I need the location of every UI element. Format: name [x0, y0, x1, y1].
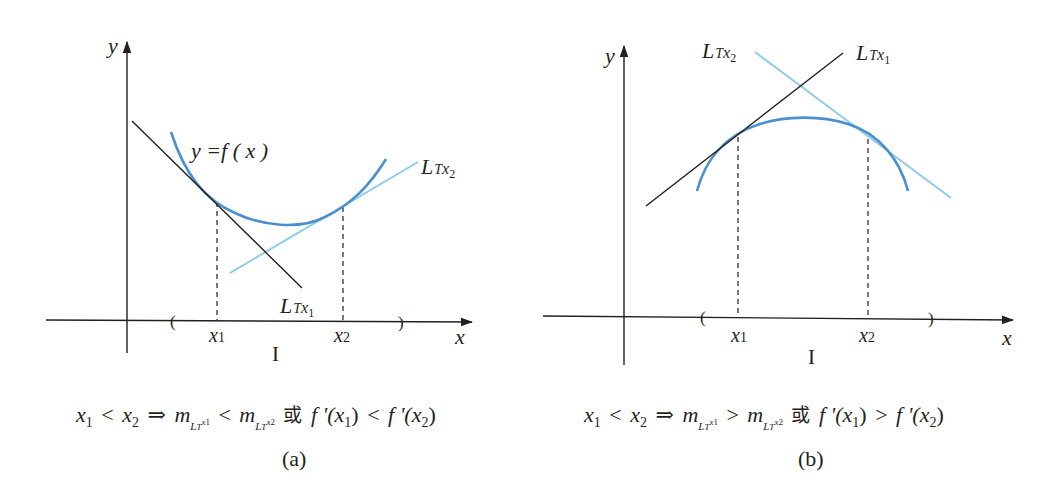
interval-close-paren-a: ) — [398, 313, 404, 332]
y-axis-label-b: y — [603, 43, 615, 68]
panel-b: ( ) y x x1 x2 I LTx1 LTx2 — [543, 38, 1013, 369]
interval-open-paren-b: ( — [700, 308, 706, 327]
tangent2-label-a: LTx2 — [420, 154, 455, 181]
tangent2-label-b: LTx2 — [701, 38, 736, 65]
curve-f-b — [697, 118, 908, 191]
y-axis-label-a: y — [106, 33, 118, 58]
x-axis-a — [46, 320, 472, 322]
panel-tag-b: (b) — [798, 446, 824, 472]
x2-label-a: x2 — [333, 324, 350, 346]
interval-label-b: I — [808, 345, 815, 369]
interval-open-paren-a: ( — [170, 312, 176, 331]
interval-close-paren-b: ) — [928, 309, 934, 328]
x-axis-b — [543, 316, 1013, 320]
tangent-line-x1-b — [646, 53, 843, 206]
panel-tag-a: (a) — [282, 446, 306, 472]
x-axis-label-b: x — [1001, 325, 1012, 350]
tangent1-label-a: LTx1 — [279, 293, 314, 320]
x1-label-b: x1 — [730, 324, 747, 346]
caption-formula-a: x1 < x2 ⇒ mLTx1 < mLTx2 或 f '(x1) < f '(… — [76, 400, 436, 432]
tangent1-label-b: LTx1 — [855, 40, 890, 67]
x2-label-b: x2 — [858, 324, 875, 346]
x1-label-a: x1 — [208, 324, 225, 346]
caption-formula-b: x1 < x2 ⇒ mLTx1 > mLTx2 或 f '(x1) > f '(… — [584, 400, 944, 432]
interval-label-a: I — [272, 342, 279, 366]
curve-label-a: y =f ( x ) — [189, 138, 268, 163]
panel-a: ( ) y x y =f ( x ) x1 x2 I LTx1 LTx2 — [46, 33, 472, 366]
x-axis-label-a: x — [454, 324, 465, 349]
